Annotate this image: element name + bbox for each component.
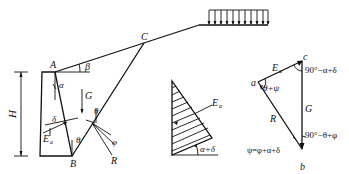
R-label-polygon: R [269, 113, 276, 124]
height-dimension: H [6, 72, 28, 156]
vertex-c-label: c [303, 51, 308, 62]
Ea-sub-wall: a [50, 139, 53, 145]
backfill-surface [55, 25, 199, 72]
Ea-sub-polygon: a [279, 68, 282, 74]
height-label: H [6, 109, 18, 119]
Ea-sub-diagram: a [219, 103, 222, 109]
G-label-polygon: G [305, 103, 312, 114]
vertex-b-label: b [300, 161, 305, 172]
alpha-label: α [59, 80, 64, 90]
point-B-label: B [70, 158, 76, 169]
angle-b-label: 90°−θ+φ [305, 130, 337, 140]
surcharge-arrows [208, 10, 270, 25]
theta-label-B: θ [76, 135, 81, 145]
R-label-wall: R [110, 155, 117, 166]
Ea-label-diagram: E [211, 97, 218, 108]
slip-plane-BC [72, 43, 144, 156]
psi-definition: ψ=φ+α+δ [247, 145, 280, 155]
G-label-wall: G [85, 90, 92, 101]
point-C-label: C [141, 31, 148, 42]
vertex-a-label: a [251, 77, 256, 88]
angle-c-label: 90°−α+δ [305, 65, 337, 75]
beta-label: β [84, 61, 90, 72]
alpha-plus-delta-label: α+δ [200, 144, 216, 154]
phi-label: φ [112, 137, 117, 147]
force-polygon [258, 61, 306, 151]
point-A-label: A [49, 59, 57, 70]
angle-a-label: θ+ψ [263, 83, 279, 93]
Ea-label-polygon: E [271, 62, 278, 73]
theta-label-slip: θ [94, 106, 99, 116]
coulomb-diagram: H A B C β α δ E a θ G θ R φ [0, 0, 349, 174]
Ea-label-wall: E [42, 133, 49, 144]
surcharge-load [199, 10, 270, 25]
